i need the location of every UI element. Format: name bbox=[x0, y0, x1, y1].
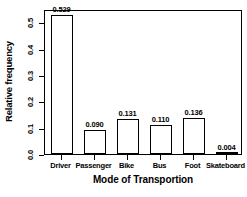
y-axis-tick-label: 0.5 bbox=[27, 18, 36, 28]
x-axis-tick-mark bbox=[61, 155, 62, 160]
bar-slot: 0.136 bbox=[177, 11, 210, 154]
x-axis-tick-mark bbox=[160, 155, 161, 160]
x-axis-tick-mark bbox=[94, 155, 95, 160]
x-axis-title: Mode of Transportion bbox=[44, 174, 242, 185]
bar[interactable] bbox=[51, 15, 73, 154]
bar-slot: 0.529 bbox=[45, 11, 78, 154]
bar-slot: 0.131 bbox=[111, 11, 144, 154]
y-axis-title-text: Relative frequency bbox=[3, 41, 14, 122]
x-axis-tick-mark bbox=[127, 155, 128, 160]
y-axis-tick-label: 0.1 bbox=[27, 124, 36, 134]
bar[interactable] bbox=[84, 130, 106, 154]
bar[interactable] bbox=[216, 152, 238, 154]
bar-slot: 0.110 bbox=[144, 11, 177, 154]
y-axis-tick-label: 0.0 bbox=[27, 150, 36, 160]
x-axis-tick-mark bbox=[226, 155, 227, 160]
x-axis-tick-label: Driver bbox=[50, 161, 70, 170]
bar-value-label: 0.004 bbox=[218, 143, 236, 152]
y-axis-title: Relative frequency bbox=[0, 0, 16, 162]
bars-layer: 0.5290.0900.1310.1100.1360.004 bbox=[45, 11, 241, 154]
bar-slot: 0.004 bbox=[210, 11, 243, 154]
x-axis-tick-label: Bike bbox=[119, 161, 134, 170]
bar-value-label: 0.131 bbox=[119, 109, 137, 118]
x-axis-tick-label: Foot bbox=[185, 161, 200, 170]
bar-slot: 0.090 bbox=[78, 11, 111, 154]
y-axis-tick-label: 0.2 bbox=[27, 97, 36, 107]
bar-chart-figure: Relative frequency 0.00.10.20.30.40.5 0.… bbox=[0, 0, 247, 197]
bar[interactable] bbox=[117, 119, 139, 154]
x-axis-tick-labels: DriverPassengerBikeBusFootSkateboard bbox=[44, 161, 242, 173]
bar-value-label: 0.090 bbox=[86, 120, 104, 129]
x-axis-tick-label: Bus bbox=[153, 161, 167, 170]
y-axis-tick-labels: 0.00.10.20.30.40.5 bbox=[16, 10, 38, 155]
bar-value-label: 0.529 bbox=[53, 5, 71, 14]
x-axis-tick-label: Passenger bbox=[75, 161, 111, 170]
bar[interactable] bbox=[183, 118, 205, 154]
bar-value-label: 0.136 bbox=[185, 108, 203, 117]
x-axis-tick-mark bbox=[193, 155, 194, 160]
bar[interactable] bbox=[150, 125, 172, 154]
y-axis-tick-label: 0.3 bbox=[27, 71, 36, 81]
plot-area: 0.5290.0900.1310.1100.1360.004 bbox=[44, 10, 242, 155]
x-axis-tick-label: Skateboard bbox=[206, 161, 245, 170]
y-axis-tick-label: 0.4 bbox=[27, 45, 36, 55]
bar-value-label: 0.110 bbox=[152, 115, 169, 124]
